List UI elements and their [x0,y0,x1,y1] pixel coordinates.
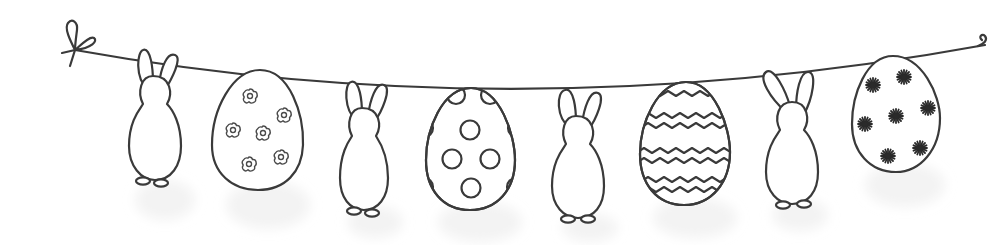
egg-stars [852,56,940,172]
egg-polka-dots [415,86,526,210]
bunny-1 [129,50,181,187]
egg-flowers [212,70,303,190]
bunny-4 [763,71,818,208]
garland-string [75,45,985,89]
egg-zigzag [636,82,736,205]
bunny-2 [340,82,388,217]
bow-knot-icon [62,21,95,66]
bunny-3 [552,90,604,223]
easter-garland-illustration [0,0,992,245]
